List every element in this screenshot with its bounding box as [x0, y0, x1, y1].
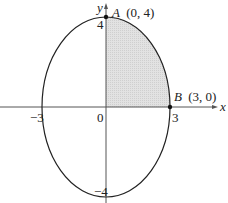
diagram-canvas: y x 0 4 −4 −3 3 A (0, 4) B (3, 0) — [0, 0, 228, 203]
point-a-coords: (0, 4) — [126, 5, 154, 20]
point-a — [104, 15, 108, 19]
tick-y-neg: −4 — [94, 184, 108, 199]
point-a-label: A (0, 4) — [111, 5, 154, 20]
shaded-region — [106, 17, 170, 107]
point-b-name: B — [174, 89, 182, 104]
origin-label: 0 — [97, 110, 104, 125]
tick-x-pos: 3 — [172, 110, 179, 125]
y-axis-arrow-icon — [104, 3, 108, 9]
point-a-name: A — [111, 5, 120, 20]
x-axis-label: x — [219, 99, 226, 114]
point-b-coords: (3, 0) — [188, 89, 216, 104]
point-b — [168, 105, 172, 109]
tick-x-neg: −3 — [30, 110, 44, 125]
point-b-label: B (3, 0) — [174, 89, 216, 104]
ellipse-diagram: y x 0 4 −4 −3 3 A (0, 4) B (3, 0) — [0, 0, 228, 203]
y-axis-label: y — [95, 0, 103, 15]
x-axis-arrow-icon — [212, 105, 218, 109]
tick-y-pos: 4 — [97, 17, 104, 32]
